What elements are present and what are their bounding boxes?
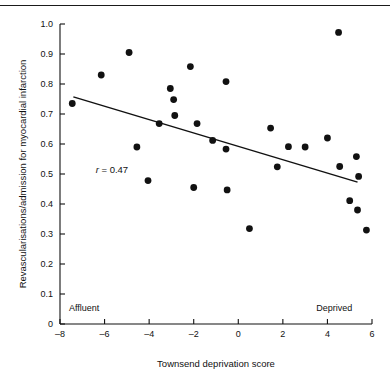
affluent-label: Affluent <box>69 303 100 313</box>
y-tick-label: 1.0 <box>40 19 53 29</box>
x-tick-label: 2 <box>280 329 285 339</box>
data-point <box>285 143 292 150</box>
data-point <box>363 227 370 234</box>
data-point <box>224 187 231 194</box>
data-point <box>156 120 163 127</box>
y-tick-label: 0.1 <box>40 289 53 299</box>
data-point <box>98 72 105 79</box>
chart-annotations: r = 0.47AffluentDeprived <box>69 164 352 313</box>
x-tick-label: 0 <box>236 329 241 339</box>
x-axis-tick-labels: –8–6–4–20246 <box>55 329 375 339</box>
data-point <box>69 100 76 107</box>
x-tick-label: –2 <box>189 329 199 339</box>
y-tick-label: 0.5 <box>40 169 53 179</box>
y-tick-label: 0.4 <box>40 199 53 209</box>
data-point <box>346 197 353 204</box>
scatter-plot: –8–6–4–20246 00.10.20.30.40.50.60.70.80.… <box>0 0 390 376</box>
data-point <box>302 144 309 151</box>
data-point <box>223 78 230 85</box>
x-tick-label: –8 <box>55 329 65 339</box>
x-tick-label: –4 <box>144 329 154 339</box>
data-point <box>126 49 133 56</box>
data-point <box>209 137 216 144</box>
correlation-annotation: r = 0.47 <box>96 164 128 175</box>
data-point <box>167 85 174 92</box>
data-point <box>194 120 201 127</box>
data-points <box>69 29 370 234</box>
r-value: = 0.47 <box>99 164 128 175</box>
y-tick-label: 0.7 <box>40 109 53 119</box>
data-point <box>267 125 274 132</box>
data-point <box>336 163 343 170</box>
data-point <box>354 207 361 214</box>
x-tick-label: 4 <box>325 329 330 339</box>
x-tick-label: –6 <box>100 329 110 339</box>
x-tick-label: 6 <box>369 329 374 339</box>
figure-container: –8–6–4–20246 00.10.20.30.40.50.60.70.80.… <box>0 0 390 376</box>
x-axis-title: Townsend deprivation score <box>157 358 275 369</box>
data-point <box>145 177 152 184</box>
data-point <box>133 144 140 151</box>
data-point <box>355 173 362 180</box>
y-tick-label: 0.6 <box>40 139 53 149</box>
y-tick-label: 0.8 <box>40 79 53 89</box>
y-tick-label: 0.2 <box>40 259 53 269</box>
deprived-label: Deprived <box>316 303 352 313</box>
data-point <box>171 112 178 119</box>
data-point <box>335 29 342 36</box>
data-point <box>190 184 197 191</box>
data-point <box>170 96 177 103</box>
y-tick-label: 0.9 <box>40 49 53 59</box>
data-point <box>246 225 253 232</box>
data-point <box>274 163 281 170</box>
y-axis-tick-labels: 00.10.20.30.40.50.60.70.80.91.0 <box>40 19 53 329</box>
data-point <box>353 153 360 160</box>
data-point <box>187 63 194 70</box>
y-tick-label: 0.3 <box>40 229 53 239</box>
data-point <box>324 135 331 142</box>
data-point <box>223 146 230 153</box>
y-tick-label: 0 <box>48 319 53 329</box>
y-axis-title: Revascularisations/admission for myocard… <box>17 60 28 289</box>
